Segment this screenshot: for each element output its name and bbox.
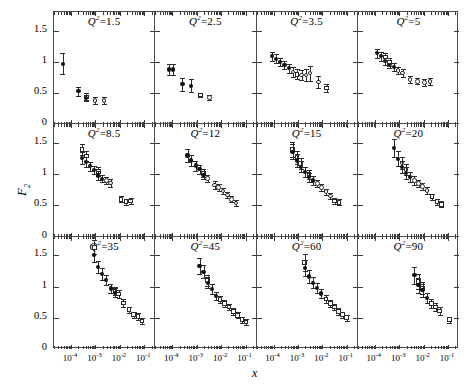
x-tick-top <box>382 124 383 127</box>
data-point-open-square <box>430 194 435 199</box>
y-tick-label: 1 <box>21 166 47 177</box>
y-tick <box>155 287 160 288</box>
x-tick-top <box>310 12 311 15</box>
x-tick-exponent: -4 <box>173 351 178 358</box>
y-tick <box>155 205 160 206</box>
x-tick-top <box>386 237 387 240</box>
x-tick <box>253 346 254 349</box>
error-bar-cap <box>316 88 321 89</box>
x-tick-top <box>390 237 391 240</box>
x-tick-label: 10-1 <box>333 351 359 363</box>
error-bar-cap <box>401 77 406 78</box>
x-tick <box>88 346 89 349</box>
x-tick-top <box>424 237 425 241</box>
x-tick-top <box>274 124 275 128</box>
x-tick <box>411 346 412 349</box>
data-point-open-circle <box>108 181 113 186</box>
x-tick-top <box>78 124 79 127</box>
x-tick-top <box>362 237 363 240</box>
x-tick-top <box>238 12 239 15</box>
x-tick-top <box>305 12 306 15</box>
x-tick-top <box>399 124 400 128</box>
x-tick-top <box>354 12 355 15</box>
panel-title-symbol: Q <box>394 239 402 251</box>
x-tick <box>399 345 400 349</box>
x-tick-top <box>315 12 316 15</box>
x-tick-base: 10 <box>415 353 424 363</box>
y-tick-label: 0.5 <box>21 310 47 321</box>
y-tick <box>257 318 262 319</box>
error-bar-cap <box>60 53 65 54</box>
x-tick-top <box>204 12 205 15</box>
x-tick <box>197 345 198 349</box>
x-tick-top <box>431 12 432 15</box>
panel-title-value: 1.5 <box>106 15 120 27</box>
y-tick-label: 0.5 <box>21 197 47 208</box>
x-tick <box>334 346 335 349</box>
x-tick-top <box>339 237 340 240</box>
x-tick <box>132 346 133 349</box>
y-tick-label: 0 <box>21 116 47 127</box>
x-tick <box>221 345 222 349</box>
x-tick-top <box>455 12 456 15</box>
x-tick <box>64 346 65 349</box>
x-tick <box>291 346 292 349</box>
error-bar-cap <box>76 96 81 97</box>
x-tick-top <box>187 12 188 15</box>
y-tick-label: 1 <box>21 279 47 290</box>
x-tick <box>407 346 408 349</box>
error-bar-cap <box>92 262 97 263</box>
y-tick <box>358 255 363 256</box>
data-point-open-circle <box>308 71 313 76</box>
x-tick-top <box>347 12 348 16</box>
x-tick <box>298 345 299 349</box>
error-bar-cap <box>93 104 98 105</box>
x-tick-top <box>392 237 393 240</box>
error-bar-cap <box>108 284 113 285</box>
x-tick-exponent: -1 <box>348 351 353 358</box>
x-tick <box>392 346 393 349</box>
x-tick-top <box>238 124 239 127</box>
x-tick-label: 10-3 <box>81 351 107 363</box>
x-tick <box>211 346 212 349</box>
error-bar-cap <box>447 323 452 324</box>
error-bar-cap <box>420 282 425 283</box>
y-tick <box>155 93 160 94</box>
y-tick <box>155 31 160 32</box>
x-tick-top <box>221 12 222 16</box>
error-bar-cap <box>425 293 430 294</box>
x-tick-top <box>184 12 185 15</box>
panel-title-value: 45 <box>209 239 220 251</box>
x-tick-top <box>152 12 153 15</box>
data-point-filled-circle <box>171 67 175 71</box>
x-tick-top <box>160 237 161 240</box>
x-tick-top <box>132 12 133 15</box>
x-tick-top <box>291 124 292 127</box>
x-tick-top <box>264 124 265 127</box>
x-tick-top <box>172 12 173 16</box>
x-tick-top <box>86 12 87 15</box>
x-tick-top <box>337 12 338 15</box>
x-tick <box>163 346 164 349</box>
x-tick-top <box>61 237 62 240</box>
x-tick-label: 10-3 <box>284 351 310 363</box>
data-point-filled-circle <box>92 253 96 257</box>
error-bar-cap <box>428 85 433 86</box>
x-tick <box>113 346 114 349</box>
x-tick-top <box>214 124 215 127</box>
y-tick-label: 1.5 <box>21 247 47 258</box>
error-bar-cap <box>396 151 401 152</box>
y-tick <box>257 93 262 94</box>
x-tick <box>310 346 311 349</box>
y-tick-label: 0.5 <box>21 85 47 96</box>
x-tick-top <box>285 237 286 240</box>
error-bar-cap <box>392 139 397 140</box>
error-bar-cap <box>416 274 421 275</box>
x-tick-top <box>236 12 237 15</box>
data-point-open-square <box>128 199 133 204</box>
error-bar-cap <box>80 164 85 165</box>
x-tick-top <box>184 124 185 127</box>
error-bar-cap <box>189 79 194 80</box>
x-tick-top <box>58 124 59 127</box>
x-tick-top <box>266 237 267 240</box>
